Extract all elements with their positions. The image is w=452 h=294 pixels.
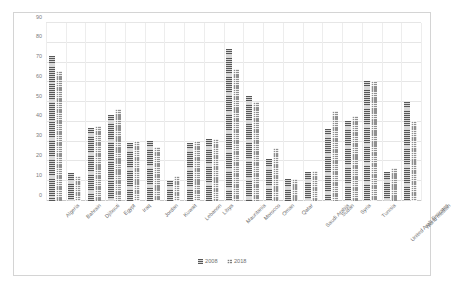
bar-group	[224, 23, 244, 201]
x-axis-tick-label: Syria	[360, 203, 373, 216]
bar-2008[interactable]	[325, 129, 331, 201]
bar-group	[362, 23, 382, 201]
y-axis-tick-label: 80	[36, 35, 42, 40]
bar-2008[interactable]	[345, 121, 351, 201]
series-swatch-2008-icon	[198, 259, 203, 264]
bar-group	[164, 23, 184, 201]
x-axis-tick-label: Tunisia	[381, 203, 397, 219]
bar-group	[263, 23, 283, 201]
bar-group	[105, 23, 125, 201]
bar-2018[interactable]	[352, 116, 358, 201]
bar-2008[interactable]	[147, 141, 153, 201]
bar-2018[interactable]	[332, 111, 338, 201]
chart-legend: 20082018	[14, 259, 430, 265]
bar-2018[interactable]	[115, 109, 121, 201]
x-axis-tick-label: Libya	[222, 203, 235, 216]
bar-2018[interactable]	[213, 139, 219, 201]
y-axis-tick-label: 30	[36, 134, 42, 139]
y-axis-tick-label: 90	[36, 15, 42, 20]
bar-2018[interactable]	[391, 168, 397, 201]
bar-2018[interactable]	[134, 141, 140, 201]
bars-layer	[46, 23, 421, 201]
bar-2018[interactable]	[95, 126, 101, 201]
bar-2018[interactable]	[273, 148, 279, 201]
bar-2008[interactable]	[108, 115, 114, 201]
bar-2018[interactable]	[312, 171, 318, 201]
x-axis-tick-label: Jordan	[163, 203, 178, 218]
y-axis-tick-label: 20	[36, 153, 42, 158]
x-axis-tick-label: Bahrain	[85, 203, 102, 220]
y-axis-tick-label: 70	[36, 54, 42, 59]
bar-2008[interactable]	[266, 159, 272, 201]
y-axis-tick-label: 50	[36, 94, 42, 99]
legend-label: 2008	[205, 259, 217, 265]
bar-2018[interactable]	[194, 141, 200, 201]
x-axis-tick-label: Iraq	[142, 203, 152, 213]
legend-item-2018[interactable]: 2018	[227, 259, 247, 265]
chart-container: 0102030405060708090 AlgeriaBahrainDjibou…	[13, 12, 431, 276]
plot-area: 0102030405060708090	[46, 23, 421, 201]
bar-group	[283, 23, 303, 201]
bar-2008[interactable]	[49, 56, 55, 201]
x-axis-tick-label: Lebanon	[204, 203, 223, 222]
bar-group	[85, 23, 105, 201]
bar-2018[interactable]	[174, 176, 180, 201]
y-axis-tick-label: 10	[36, 173, 42, 178]
bar-2008[interactable]	[226, 49, 232, 201]
y-axis-tick-label: 0	[39, 193, 42, 198]
x-axis-tick-label: Egypt	[123, 203, 137, 217]
x-axis-tick-label: Oman	[281, 203, 295, 217]
bar-2008[interactable]	[167, 181, 173, 201]
y-axis-tick-label: 60	[36, 74, 42, 79]
bar-2018[interactable]	[56, 71, 62, 201]
bar-2008[interactable]	[384, 172, 390, 201]
bar-2008[interactable]	[246, 96, 252, 201]
bar-2008[interactable]	[305, 172, 311, 201]
bar-group	[46, 23, 66, 201]
x-axis-tick-label: Mauritania	[245, 203, 267, 225]
bar-2008[interactable]	[206, 139, 212, 201]
bar-group	[184, 23, 204, 201]
bar-2018[interactable]	[233, 69, 239, 202]
bar-group	[145, 23, 165, 201]
bar-2008[interactable]	[88, 128, 94, 201]
bar-group	[382, 23, 402, 201]
category-separator	[421, 23, 422, 201]
x-axis-tick-label: Algeria	[65, 203, 81, 219]
bar-group	[125, 23, 145, 201]
bar-group	[322, 23, 342, 201]
bar-group	[401, 23, 421, 201]
legend-label: 2018	[234, 259, 246, 265]
bar-2008[interactable]	[68, 173, 74, 201]
x-axis-tick-labels: AlgeriaBahrainDjiboutiEgyptIraqJordanKuw…	[46, 203, 421, 265]
bar-2008[interactable]	[364, 81, 370, 201]
bar-2018[interactable]	[411, 121, 417, 201]
bar-group	[204, 23, 224, 201]
bar-2008[interactable]	[127, 143, 133, 201]
bar-2008[interactable]	[404, 102, 410, 201]
bar-2018[interactable]	[75, 176, 81, 201]
series-swatch-2018-icon	[227, 259, 232, 264]
bar-2008[interactable]	[285, 179, 291, 201]
bar-2008[interactable]	[187, 143, 193, 201]
legend-item-2008[interactable]: 2008	[198, 259, 218, 265]
bar-2018[interactable]	[371, 81, 377, 201]
x-axis-tick-label: Qatar	[301, 203, 314, 216]
x-axis-tick-label: Djibouti	[105, 203, 122, 220]
bar-group	[303, 23, 323, 201]
bar-group	[66, 23, 86, 201]
y-axis-tick-label: 40	[36, 114, 42, 119]
bar-2018[interactable]	[154, 147, 160, 201]
x-axis-tick-label: Kuwait	[183, 203, 198, 218]
bar-group	[243, 23, 263, 201]
bar-2018[interactable]	[292, 179, 298, 201]
bar-2018[interactable]	[253, 102, 259, 201]
bar-group	[342, 23, 362, 201]
